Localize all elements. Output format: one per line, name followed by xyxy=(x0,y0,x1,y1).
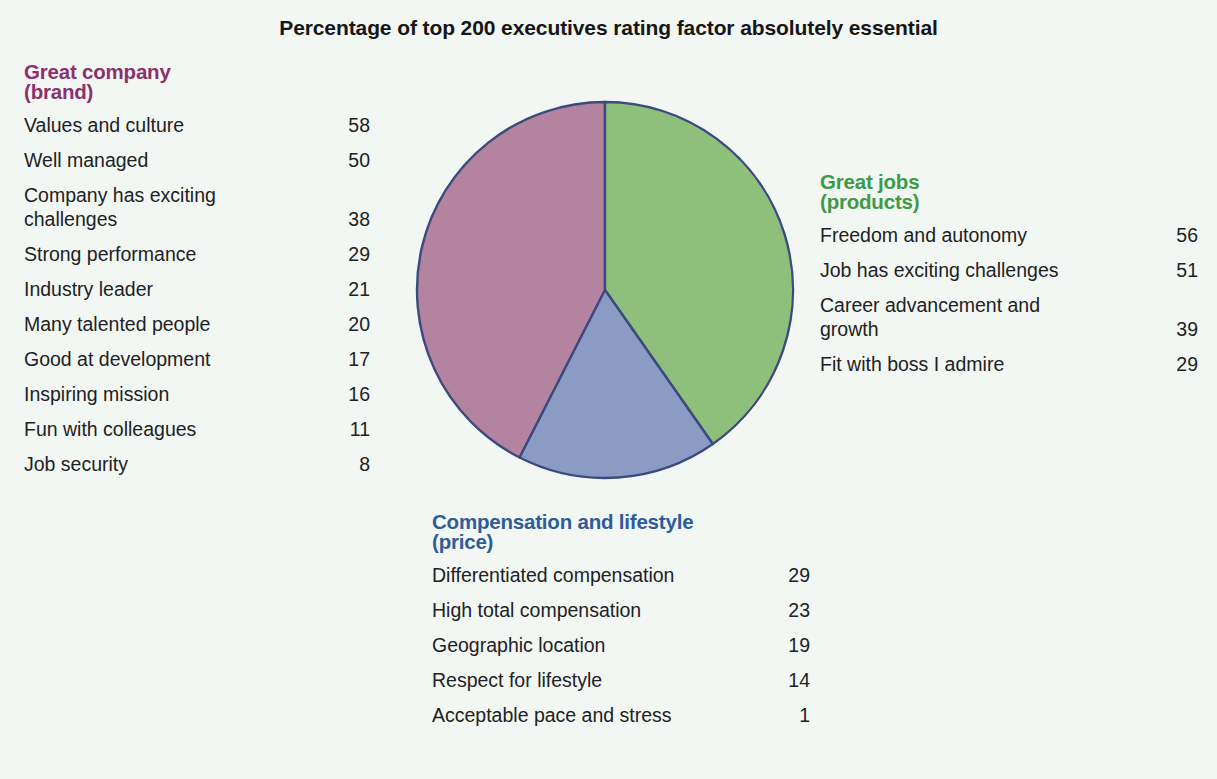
factor-value: 11 xyxy=(328,417,370,441)
factor-row: Strong performance29 xyxy=(24,242,370,266)
factor-row: Inspiring mission16 xyxy=(24,382,370,406)
factor-label: Many talented people xyxy=(24,312,328,336)
factor-value: 58 xyxy=(328,113,370,137)
factor-label: Job security xyxy=(24,452,328,476)
factor-value: 56 xyxy=(1156,223,1198,247)
factor-row: Fit with boss I admire29 xyxy=(820,352,1198,376)
factor-value: 14 xyxy=(772,668,810,692)
factor-label: High total compensation xyxy=(432,598,772,622)
factor-row: Good at development17 xyxy=(24,347,370,371)
factor-row: Freedom and autonomy56 xyxy=(820,223,1198,247)
factor-label: Differentiated compensation xyxy=(432,563,772,587)
factor-label: Industry leader xyxy=(24,277,328,301)
panel-heading-compensation: Compensation and lifestyle (price) xyxy=(432,512,810,552)
factor-value: 38 xyxy=(328,207,370,231)
factor-label: Well managed xyxy=(24,148,328,172)
factor-label: Strong performance xyxy=(24,242,328,266)
factor-value: 16 xyxy=(328,382,370,406)
factor-row: Fun with colleagues11 xyxy=(24,417,370,441)
factor-label: Values and culture xyxy=(24,113,328,137)
factor-value: 20 xyxy=(328,312,370,336)
factor-label: Freedom and autonomy xyxy=(820,223,1156,247)
factor-row: Company has exciting challenges38 xyxy=(24,183,370,231)
factor-row: Industry leader21 xyxy=(24,277,370,301)
factor-label: Company has exciting challenges xyxy=(24,183,328,231)
factor-row: Acceptable pace and stress1 xyxy=(432,703,810,727)
factor-value: 1 xyxy=(772,703,810,727)
factor-value: 29 xyxy=(772,563,810,587)
panel-compensation-lifestyle: Compensation and lifestyle (price) Diffe… xyxy=(432,512,810,738)
factor-label: Job has exciting challenges xyxy=(820,258,1156,282)
factor-row: Respect for lifestyle14 xyxy=(432,668,810,692)
factor-value: 21 xyxy=(328,277,370,301)
pie-slices xyxy=(417,102,793,478)
factor-value: 29 xyxy=(1156,352,1198,376)
factor-row: Well managed50 xyxy=(24,148,370,172)
factor-value: 19 xyxy=(772,633,810,657)
factor-row: Values and culture58 xyxy=(24,113,370,137)
factor-label: Fun with colleagues xyxy=(24,417,328,441)
factor-value: 23 xyxy=(772,598,810,622)
factor-label: Geographic location xyxy=(432,633,772,657)
factor-value: 51 xyxy=(1156,258,1198,282)
panel-great-jobs: Great jobs (products) Freedom and autono… xyxy=(820,172,1198,387)
panel-heading-great-jobs: Great jobs (products) xyxy=(820,172,1198,212)
factor-value: 50 xyxy=(328,148,370,172)
panel-great-company: Great company (brand) Values and culture… xyxy=(24,62,370,487)
factor-row: Many talented people20 xyxy=(24,312,370,336)
factor-value: 8 xyxy=(328,452,370,476)
pie-chart xyxy=(413,98,797,482)
panel-subheading-text: (brand) xyxy=(24,82,370,102)
factor-row: Job security8 xyxy=(24,452,370,476)
factor-label: Acceptable pace and stress xyxy=(432,703,772,727)
factor-row: High total compensation23 xyxy=(432,598,810,622)
factor-row: Career advancement and growth39 xyxy=(820,293,1198,341)
factor-label: Respect for lifestyle xyxy=(432,668,772,692)
factor-value: 29 xyxy=(328,242,370,266)
page-title: Percentage of top 200 executives rating … xyxy=(0,16,1217,40)
factor-label: Fit with boss I admire xyxy=(820,352,1156,376)
factor-label: Good at development xyxy=(24,347,328,371)
panel-heading-great-company: Great company (brand) xyxy=(24,62,370,102)
panel-subheading-text: (price) xyxy=(432,532,810,552)
factor-row: Geographic location19 xyxy=(432,633,810,657)
factor-label: Career advancement and growth xyxy=(820,293,1156,341)
factor-row: Job has exciting challenges51 xyxy=(820,258,1198,282)
factor-list-great-jobs: Freedom and autonomy56Job has exciting c… xyxy=(820,223,1198,376)
factor-value: 17 xyxy=(328,347,370,371)
factor-row: Differentiated compensation29 xyxy=(432,563,810,587)
factor-list-great-company: Values and culture58Well managed50Compan… xyxy=(24,113,370,476)
factor-label: Inspiring mission xyxy=(24,382,328,406)
factor-value: 39 xyxy=(1156,317,1198,341)
panel-subheading-text: (products) xyxy=(820,192,1198,212)
factor-list-compensation: Differentiated compensation29High total … xyxy=(432,563,810,727)
